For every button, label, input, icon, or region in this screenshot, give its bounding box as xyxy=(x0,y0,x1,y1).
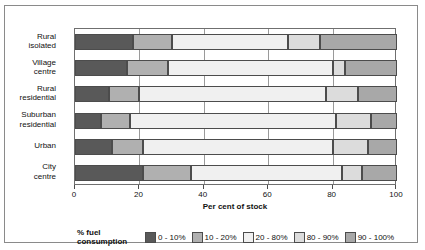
bar-segment xyxy=(130,113,336,129)
legend-label: 20 - 80% xyxy=(256,233,288,242)
category-label: Village centre xyxy=(0,58,56,77)
bar-segment xyxy=(368,139,397,155)
x-axis-tick xyxy=(332,185,333,189)
bar-row xyxy=(75,86,395,102)
bar-segment xyxy=(109,86,140,102)
legend-title: % fuel consumption xyxy=(77,228,137,247)
x-axis-tick-label: 20 xyxy=(118,190,158,199)
legend-label: 10 - 20% xyxy=(205,233,237,242)
legend-label: 0 - 10% xyxy=(158,233,186,242)
legend-label: 80 - 90% xyxy=(307,233,339,242)
bar-segment xyxy=(371,113,397,129)
x-axis-tick xyxy=(267,185,268,189)
bar-segment xyxy=(320,34,397,50)
legend-item: 20 - 80% xyxy=(243,232,288,243)
bar-segment xyxy=(133,34,172,50)
legend-swatch xyxy=(145,232,156,243)
bar-segment xyxy=(191,165,342,181)
legend-item: 0 - 10% xyxy=(145,232,186,243)
plot-area xyxy=(74,28,396,185)
bar-segment xyxy=(139,86,326,102)
bar-segment xyxy=(75,34,133,50)
x-axis-tick xyxy=(138,185,139,189)
category-label: Suburban residential xyxy=(0,110,56,129)
bar-row xyxy=(75,113,395,129)
bar-segment xyxy=(362,165,397,181)
x-axis-ticks: 020406080100 xyxy=(74,185,396,190)
bar-segment xyxy=(288,34,320,50)
category-label: City centre xyxy=(0,162,56,181)
x-axis-tick xyxy=(74,185,75,189)
bar-segment xyxy=(336,113,371,129)
bar-segment xyxy=(326,86,358,102)
bar-row xyxy=(75,165,395,181)
legend-swatch xyxy=(345,232,356,243)
bar-segment xyxy=(75,60,127,76)
bar-segment xyxy=(75,86,109,102)
bar-row xyxy=(75,139,395,155)
x-axis-tick-label: 40 xyxy=(183,190,223,199)
chart-figure: Rural isolatedVillage centreRural reside… xyxy=(0,0,425,250)
legend-label: 90 - 100% xyxy=(358,233,394,242)
category-label: Rural isolated xyxy=(0,32,56,51)
legend-swatch xyxy=(192,232,203,243)
x-axis-title: Per cent of stock xyxy=(74,202,396,211)
legend-item: 10 - 20% xyxy=(192,232,237,243)
x-axis-tick-label: 80 xyxy=(312,190,352,199)
figure-frame: Rural isolatedVillage centreRural reside… xyxy=(4,5,418,243)
legend-swatch xyxy=(243,232,254,243)
legend-item: 90 - 100% xyxy=(345,232,394,243)
bar-segment xyxy=(75,113,101,129)
x-axis-tick xyxy=(203,185,204,189)
bar-segment xyxy=(112,139,143,155)
category-label: Rural residential xyxy=(0,84,56,103)
bar-segment xyxy=(168,60,332,76)
category-label: Urban xyxy=(0,141,56,151)
legend-swatch xyxy=(294,232,305,243)
bar-segment xyxy=(342,165,361,181)
bar-segment xyxy=(75,139,112,155)
bar-segment xyxy=(101,113,130,129)
x-axis-tick-label: 100 xyxy=(376,190,416,199)
bar-segment xyxy=(75,165,143,181)
legend-items: 0 - 10%10 - 20%20 - 80%80 - 90%90 - 100% xyxy=(145,232,400,243)
bar-row xyxy=(75,60,395,76)
bar-segment xyxy=(143,165,191,181)
x-axis-tick xyxy=(395,185,396,189)
bar-row xyxy=(75,34,395,50)
legend-item: 80 - 90% xyxy=(294,232,339,243)
x-axis-tick-label: 60 xyxy=(247,190,287,199)
bar-segment xyxy=(143,139,333,155)
bar-segment xyxy=(358,86,397,102)
bar-segment xyxy=(127,60,169,76)
stacked-bars xyxy=(75,29,395,184)
legend: % fuel consumption 0 - 10%10 - 20%20 - 8… xyxy=(77,225,413,249)
bar-segment xyxy=(333,60,346,76)
bar-segment xyxy=(172,34,288,50)
x-axis-tick-label: 0 xyxy=(54,190,94,199)
bar-segment xyxy=(345,60,397,76)
bar-segment xyxy=(333,139,368,155)
